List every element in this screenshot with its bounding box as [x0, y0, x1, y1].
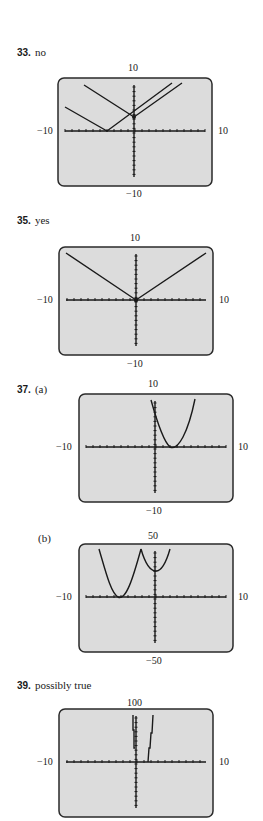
ymax-label: 10 [130, 232, 140, 243]
problem-37b-label: (b) [38, 532, 51, 544]
xmin-label: −10 [56, 441, 72, 452]
problem-33-heading: 33. no [17, 42, 46, 60]
problem-35-heading: 35. yes [17, 210, 50, 228]
graph-panel-37a [78, 393, 234, 503]
graph-panel-37b [78, 543, 234, 653]
problem-answer: yes [35, 214, 50, 226]
problem-answer: (a) [35, 383, 47, 395]
problem-39-heading: 39. possibly true [17, 675, 91, 693]
xmax-label: 10 [218, 125, 228, 136]
xmin-label: −10 [37, 756, 53, 767]
xmin-label: −10 [56, 591, 72, 602]
problem-number: 37. [17, 384, 31, 395]
ymax-label: 100 [127, 697, 142, 708]
problem-answer: no [35, 46, 46, 58]
graph-panel-33 [57, 77, 213, 187]
ymin-label: −10 [146, 505, 162, 516]
ymin-label: −10 [126, 188, 142, 199]
ymin-label: −10 [127, 358, 143, 369]
ymax-label: 50 [148, 530, 158, 541]
ymin-label: −50 [146, 655, 162, 666]
xmin-label: −10 [37, 125, 53, 136]
problem-answer: possibly true [35, 679, 92, 691]
ymax-label: 10 [148, 378, 158, 389]
problem-37-heading: 37. (a) [17, 379, 47, 397]
xmax-label: 10 [238, 441, 248, 452]
xmax-label: 10 [238, 591, 248, 602]
xmin-label: −10 [37, 294, 53, 305]
problem-number: 35. [17, 215, 31, 226]
graph-panel-39 [58, 708, 214, 818]
graph-panel-35 [58, 246, 214, 356]
problem-number: 33. [17, 47, 31, 58]
problem-number: 39. [17, 680, 31, 691]
xmax-label: 10 [219, 756, 229, 767]
xmax-label: 10 [219, 294, 229, 305]
ymax-label: 10 [128, 62, 138, 73]
